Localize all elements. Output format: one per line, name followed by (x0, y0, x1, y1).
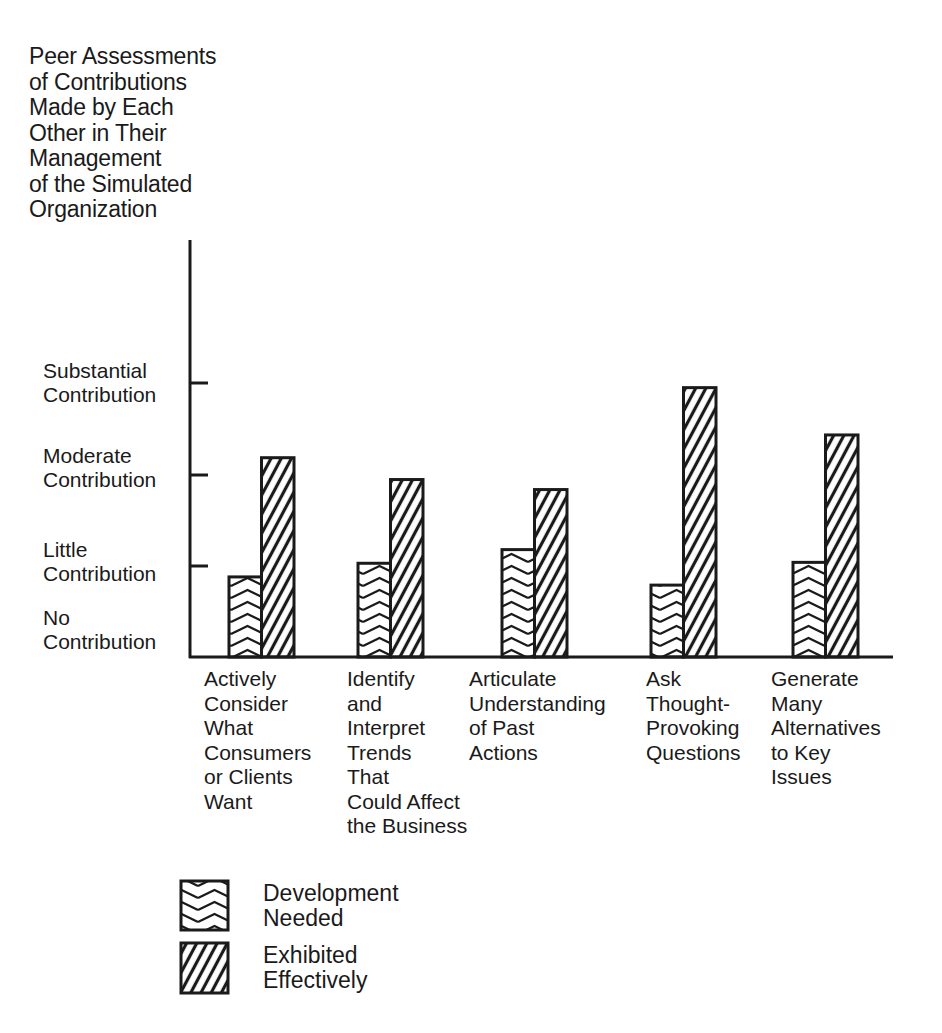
bar-exhibited-effectively-3 (535, 490, 568, 657)
bar-development-needed-2 (358, 563, 391, 657)
y-ticks (190, 383, 208, 566)
category-label-2: Identify and Interpret Trends That Could… (347, 667, 467, 839)
legend-swatch-exhibited-effectively (181, 943, 228, 993)
bars-group (229, 388, 858, 657)
bar-exhibited-effectively-5 (826, 435, 859, 657)
bar-development-needed-1 (229, 577, 262, 657)
bar-exhibited-effectively-1 (262, 458, 295, 657)
legend-label-development-needed: Development Needed (263, 881, 399, 931)
category-label-4: Ask Thought- Provoking Questions (646, 667, 741, 765)
bar-exhibited-effectively-4 (684, 388, 717, 657)
category-label-5: Generate Many Alternatives to Key Issues (771, 667, 881, 790)
legend-label-exhibited-effectively: Exhibited Effectively (263, 943, 367, 993)
bar-development-needed-5 (793, 562, 826, 657)
bar-development-needed-3 (502, 550, 535, 657)
bar-development-needed-4 (651, 585, 684, 657)
category-label-3: Articulate Understanding of Past Actions (469, 667, 606, 765)
bar-exhibited-effectively-2 (391, 480, 424, 657)
bar-chart (0, 0, 942, 1033)
category-label-1: Actively Consider What Consumers or Clie… (204, 667, 311, 814)
legend-swatch-development-needed (181, 881, 228, 930)
